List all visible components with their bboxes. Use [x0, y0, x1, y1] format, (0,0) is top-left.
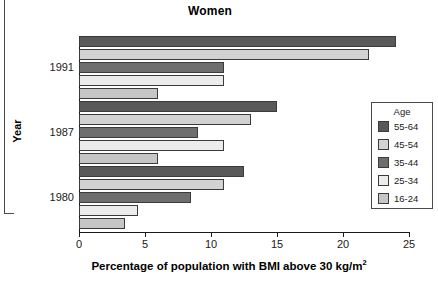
x-tick-25 — [409, 232, 410, 237]
legend-item-25-34: 25-34 — [378, 174, 432, 188]
bar-group-1987 — [79, 101, 409, 166]
legend-item-45-54: 45-54 — [378, 138, 432, 152]
y-category-label-1991: 1991 — [28, 61, 74, 73]
legend-swatch-45-54 — [378, 139, 389, 150]
x-tick-10 — [211, 232, 212, 237]
bar-group-1991 — [79, 36, 409, 101]
legend-title: Age — [372, 106, 432, 117]
x-tick-label-10: 10 — [191, 238, 231, 250]
bar-1987-25-34 — [79, 140, 224, 151]
bar-1991-55-64 — [79, 36, 396, 47]
x-tick-label-20: 20 — [323, 238, 363, 250]
bar-1991-25-34 — [79, 75, 224, 86]
bar-1980-25-34 — [79, 205, 138, 216]
legend-swatch-55-64 — [378, 121, 389, 132]
figure-border-left — [4, 0, 5, 214]
legend-swatch-35-44 — [378, 157, 389, 168]
bar-1987-45-54 — [79, 114, 251, 125]
bar-group-1980 — [79, 166, 409, 231]
x-axis-title-superscript: 2 — [362, 258, 366, 267]
legend-item-16-24: 16-24 — [378, 192, 432, 206]
legend-label-55-64: 55-64 — [394, 121, 418, 132]
x-axis-title-text: Percentage of population with BMI above … — [91, 260, 362, 272]
plot-area — [79, 36, 409, 232]
x-tick-15 — [277, 232, 278, 237]
x-tick-0 — [79, 232, 80, 237]
legend-label-16-24: 16-24 — [394, 193, 418, 204]
legend-label-35-44: 35-44 — [394, 157, 418, 168]
bar-1987-55-64 — [79, 101, 277, 112]
x-tick-5 — [145, 232, 146, 237]
x-tick-label-5: 5 — [125, 238, 165, 250]
bar-1980-55-64 — [79, 166, 244, 177]
x-tick-label-0: 0 — [59, 238, 99, 250]
chart-title: Women — [120, 4, 300, 18]
legend-item-35-44: 35-44 — [378, 156, 432, 170]
chart-figure: Women Year 0510152025 199119871980 Perce… — [0, 0, 438, 284]
x-tick-label-15: 15 — [257, 238, 297, 250]
figure-border-foot — [4, 213, 14, 214]
bar-1987-35-44 — [79, 127, 198, 138]
x-axis-line — [79, 232, 410, 233]
legend-item-55-64: 55-64 — [378, 120, 432, 134]
bar-1991-45-54 — [79, 49, 369, 60]
y-axis-title: Year — [11, 101, 23, 161]
x-axis-title: Percentage of population with BMI above … — [49, 258, 409, 272]
x-tick-label-25: 25 — [389, 238, 429, 250]
y-category-label-1980: 1980 — [28, 191, 74, 203]
x-tick-20 — [343, 232, 344, 237]
bar-1980-35-44 — [79, 192, 191, 203]
bar-1987-16-24 — [79, 153, 158, 164]
legend: Age 55-6445-5435-4425-3416-24 — [371, 102, 433, 209]
bar-1991-35-44 — [79, 62, 224, 73]
bar-1980-45-54 — [79, 179, 224, 190]
legend-swatch-25-34 — [378, 175, 389, 186]
legend-swatch-16-24 — [378, 193, 389, 204]
y-category-label-1987: 1987 — [28, 126, 74, 138]
bar-1980-16-24 — [79, 218, 125, 229]
bar-1991-16-24 — [79, 88, 158, 99]
legend-label-25-34: 25-34 — [394, 175, 418, 186]
legend-label-45-54: 45-54 — [394, 139, 418, 150]
